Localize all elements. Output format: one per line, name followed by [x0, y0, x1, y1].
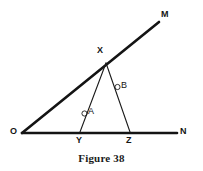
- figure-background: [0, 0, 203, 171]
- point-label-z: Z: [126, 136, 132, 145]
- figure-caption: Figure 38: [0, 152, 203, 164]
- figure-canvas: [0, 0, 203, 171]
- point-label-y: Y: [76, 136, 82, 145]
- angle-label-a: A: [88, 107, 94, 116]
- point-label-x: X: [97, 46, 103, 55]
- point-label-m: M: [161, 10, 169, 19]
- point-label-o: O: [10, 127, 17, 136]
- angle-label-b: B: [121, 81, 127, 90]
- geometry-figure: O M N X Y Z A B Figure 38: [0, 0, 203, 171]
- point-label-n: N: [180, 127, 187, 136]
